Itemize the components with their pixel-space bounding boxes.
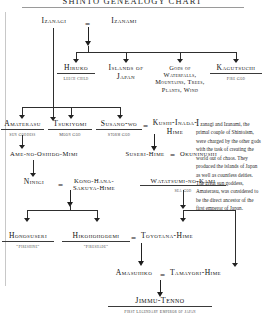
edge-hiko-union-drop: [141, 243, 142, 263]
node-subtitle: Leech Child: [57, 76, 95, 82]
node-label: Toyotana-Hime: [141, 232, 217, 240]
node-subtitle: Storm God: [96, 132, 142, 138]
node-label: Tsukiyomi: [48, 120, 92, 130]
page-title: SHINTO GENEALOGY CHART: [0, 0, 265, 6]
edge-arrow: [180, 205, 186, 209]
node-label: Islands of Japan: [103, 64, 149, 81]
node-susanowo: Susano-wo Storm God: [96, 120, 142, 138]
node-subtitle: "Fireshade": [62, 244, 130, 250]
edge-izanagi-spine: [53, 28, 54, 118]
node-toyotana-hime: Toyotana-Hime: [141, 232, 217, 240]
union-marker-susanowo-kushiinada: [143, 122, 148, 131]
node-subtitle: Fire God: [210, 76, 262, 82]
union-marker-amasuhiko-tamayori: [160, 271, 165, 280]
sidenote-paragraph: Izanagi and Izanami, the primal couple o…: [196, 120, 262, 213]
edge-arrow: [19, 145, 25, 149]
edge-arrow: [24, 218, 30, 222]
node-tamayori-hime: Tamayori-Hime: [170, 269, 250, 277]
edge-to-tamayori: [235, 210, 236, 264]
node-gods-of-nature: Gods of Waterfalls, Mountains, Trees, Pl…: [152, 64, 208, 93]
node-label: Kushi-Inada-Hime: [152, 119, 198, 136]
node-label: Izanagi: [26, 17, 82, 25]
node-tsukiyomi: Tsukiyomi Moon God: [48, 120, 92, 138]
node-kagutsuchi: Kagutsuchi Fire God: [210, 64, 262, 82]
title-divider: [22, 7, 244, 8]
edge-bus-stem: [70, 204, 71, 210]
node-label: Amasuhiko: [103, 269, 165, 277]
node-label: Jimmu-Tenno: [108, 297, 212, 307]
node-izanagi: Izanagi: [26, 17, 82, 25]
node-ame-no-oshido-mimi: Ame-no-Oshido-Mimi: [1, 150, 87, 157]
edge-arrow: [177, 59, 183, 63]
union-marker-ninigi-konohana: [58, 181, 63, 190]
union-marker-hiko-toyotana: [131, 234, 136, 243]
node-label: Izanami: [96, 17, 152, 25]
node-kono-hana-sakuya-hime: Kono-Hana-Sakuya-Hime: [68, 177, 120, 192]
node-label: Tamayori-Hime: [170, 269, 250, 277]
node-label: Honosuseri: [2, 232, 54, 242]
node-label: Hiruko: [57, 64, 95, 74]
node-subtitle: "Fireshine": [2, 244, 54, 250]
union-marker-suseri-okuninushi: [170, 151, 175, 160]
node-islands-of-japan: Islands of Japan: [103, 64, 149, 81]
node-label: Ninigi: [10, 178, 58, 186]
edge-arrow: [232, 263, 238, 267]
node-label: Gods of Waterfalls, Mountains, Trees, Pl…: [152, 64, 208, 93]
node-label: Hikohohodemi: [62, 232, 130, 242]
node-honosuseri: Honosuseri "Fireshine": [2, 232, 54, 250]
edge-arrow: [138, 261, 144, 266]
node-jimmu-tenno: Jimmu-Tenno First Legendary Emperor of J…: [108, 297, 212, 315]
node-suseri-hime: Suseri-Hime: [120, 150, 170, 157]
node-amasuhiko: Amasuhiko: [103, 269, 165, 277]
edge-arrow: [94, 218, 100, 222]
edge-arrow: [180, 218, 186, 222]
sidenote-text: zanagi and Izanami, the primal couple of…: [196, 121, 261, 211]
node-label: Amaterasu: [1, 120, 44, 130]
genealogy-chart: SHINTO GENEALOGY CHART Izanagi Izanami H…: [0, 0, 265, 320]
node-label: Susano-wo: [96, 120, 142, 130]
node-hiruko: Hiruko Leech Child: [57, 64, 95, 82]
edge-to-ninigi: [33, 160, 34, 174]
node-label: Kono-Hana-Sakuya-Hime: [68, 177, 120, 192]
node-label: Suseri-Hime: [120, 150, 170, 157]
edge-sibling-bus: [76, 52, 236, 53]
node-ninigi: Ninigi: [10, 178, 58, 186]
edge-sibling-bus-3: [27, 210, 97, 211]
node-subtitle: Moon God: [48, 132, 92, 138]
node-kushi-inada-hime: Kushi-Inada-Hime: [152, 119, 198, 136]
node-subtitle: First Legendary Emperor of Japan: [108, 309, 212, 315]
node-hikohohodemi: Hikohohodemi "Fireshade": [62, 232, 130, 250]
node-label: Kagutsuchi: [210, 64, 262, 74]
node-label: Ame-no-Oshido-Mimi: [1, 150, 87, 157]
node-izanami: Izanami: [96, 17, 152, 25]
